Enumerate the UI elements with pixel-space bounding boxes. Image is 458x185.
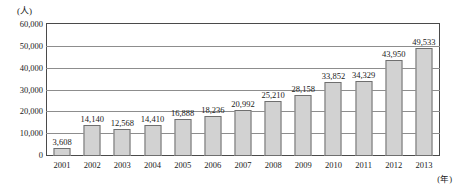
bar [174, 119, 191, 156]
bar [325, 82, 342, 156]
bar-value-label: 33,852 [322, 72, 345, 81]
bar [265, 101, 282, 156]
bar-slot: 33,852 [318, 24, 348, 156]
x-axis-tick-label: 2006 [198, 160, 228, 170]
bar-value-label: 18,236 [201, 106, 224, 115]
x-axis-tick-label: 2012 [379, 160, 409, 170]
bar [295, 95, 312, 156]
bar [54, 148, 71, 156]
bar-value-label: 16,888 [171, 109, 194, 118]
bar-slot: 28,158 [288, 24, 318, 156]
y-axis-tick-label: 50,000 [3, 41, 43, 50]
x-axis-tick-label: 2003 [107, 160, 137, 170]
y-axis-tick-label: 60,000 [3, 20, 43, 29]
bar-slot: 16,888 [168, 24, 198, 156]
bar-slot: 14,140 [77, 24, 107, 156]
bar-value-label: 20,992 [231, 100, 254, 109]
bar-value-label: 14,410 [141, 115, 164, 124]
y-axis-tick-label: 10,000 [3, 129, 43, 138]
y-axis-tick-label: 30,000 [3, 85, 43, 94]
bar-slot: 43,950 [379, 24, 409, 156]
bar-slot: 34,329 [349, 24, 379, 156]
bar-chart: (人) 010,00020,00030,00040,00050,00060,00… [0, 0, 458, 185]
y-axis-tick-label: 0 [3, 151, 43, 160]
x-axis-tick-label: 2004 [137, 160, 167, 170]
bar-value-label: 3,608 [53, 138, 72, 147]
x-axis-tick-labels: 2001200220032004200520062007200820092010… [47, 160, 439, 174]
y-axis-unit-label: (人) [17, 6, 32, 16]
y-axis-tick-label: 20,000 [3, 107, 43, 116]
bar-value-label: 12,568 [111, 119, 134, 128]
bar-slot: 49,533 [409, 24, 439, 156]
bar-value-label: 14,140 [81, 115, 104, 124]
x-axis-tick-label: 2007 [228, 160, 258, 170]
bar-slot: 3,608 [47, 24, 77, 156]
x-axis-unit-label: (年) [437, 174, 452, 184]
bars-group: 3,60814,14012,56814,41016,88818,23620,99… [47, 24, 439, 156]
y-axis-tick-label: 40,000 [3, 63, 43, 72]
bar-slot: 12,568 [107, 24, 137, 156]
bar-slot: 25,210 [258, 24, 288, 156]
bar [144, 125, 161, 156]
x-axis-tick-label: 2008 [258, 160, 288, 170]
bar [114, 129, 131, 156]
bar-value-label: 34,329 [352, 71, 375, 80]
bar [204, 116, 221, 156]
x-axis-tick-label: 2005 [168, 160, 198, 170]
x-axis-tick-label: 2002 [77, 160, 107, 170]
x-axis-tick-label: 2013 [409, 160, 439, 170]
bar-slot: 20,992 [228, 24, 258, 156]
bar-value-label: 28,158 [292, 85, 315, 94]
x-axis-tick-label: 2009 [288, 160, 318, 170]
bar-value-label: 25,210 [261, 91, 284, 100]
x-axis-tick-label: 2001 [47, 160, 77, 170]
x-axis-tick-label: 2011 [349, 160, 379, 170]
bar [234, 110, 251, 156]
x-axis-tick-label: 2010 [318, 160, 348, 170]
bar-value-label: 49,533 [412, 38, 435, 47]
bar [415, 48, 432, 156]
bar-slot: 14,410 [137, 24, 167, 156]
bar-slot: 18,236 [198, 24, 228, 156]
bar [84, 125, 101, 156]
bar-value-label: 43,950 [382, 50, 405, 59]
bar [355, 81, 372, 156]
bar [385, 60, 402, 156]
